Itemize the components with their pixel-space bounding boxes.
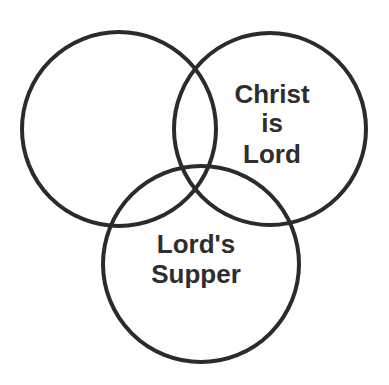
left-circle <box>22 32 216 226</box>
right-circle-label: Christ is Lord <box>234 79 309 169</box>
venn-diagram: Christ is Lord Lord's Supper <box>0 0 389 385</box>
bottom-circle-label: Lord's Supper <box>151 229 241 289</box>
label-is: is <box>261 108 283 138</box>
label-christ: Christ <box>234 79 309 109</box>
label-lord: Lord <box>243 139 301 169</box>
label-supper: Supper <box>151 259 241 289</box>
label-lords: Lord's <box>157 229 235 259</box>
